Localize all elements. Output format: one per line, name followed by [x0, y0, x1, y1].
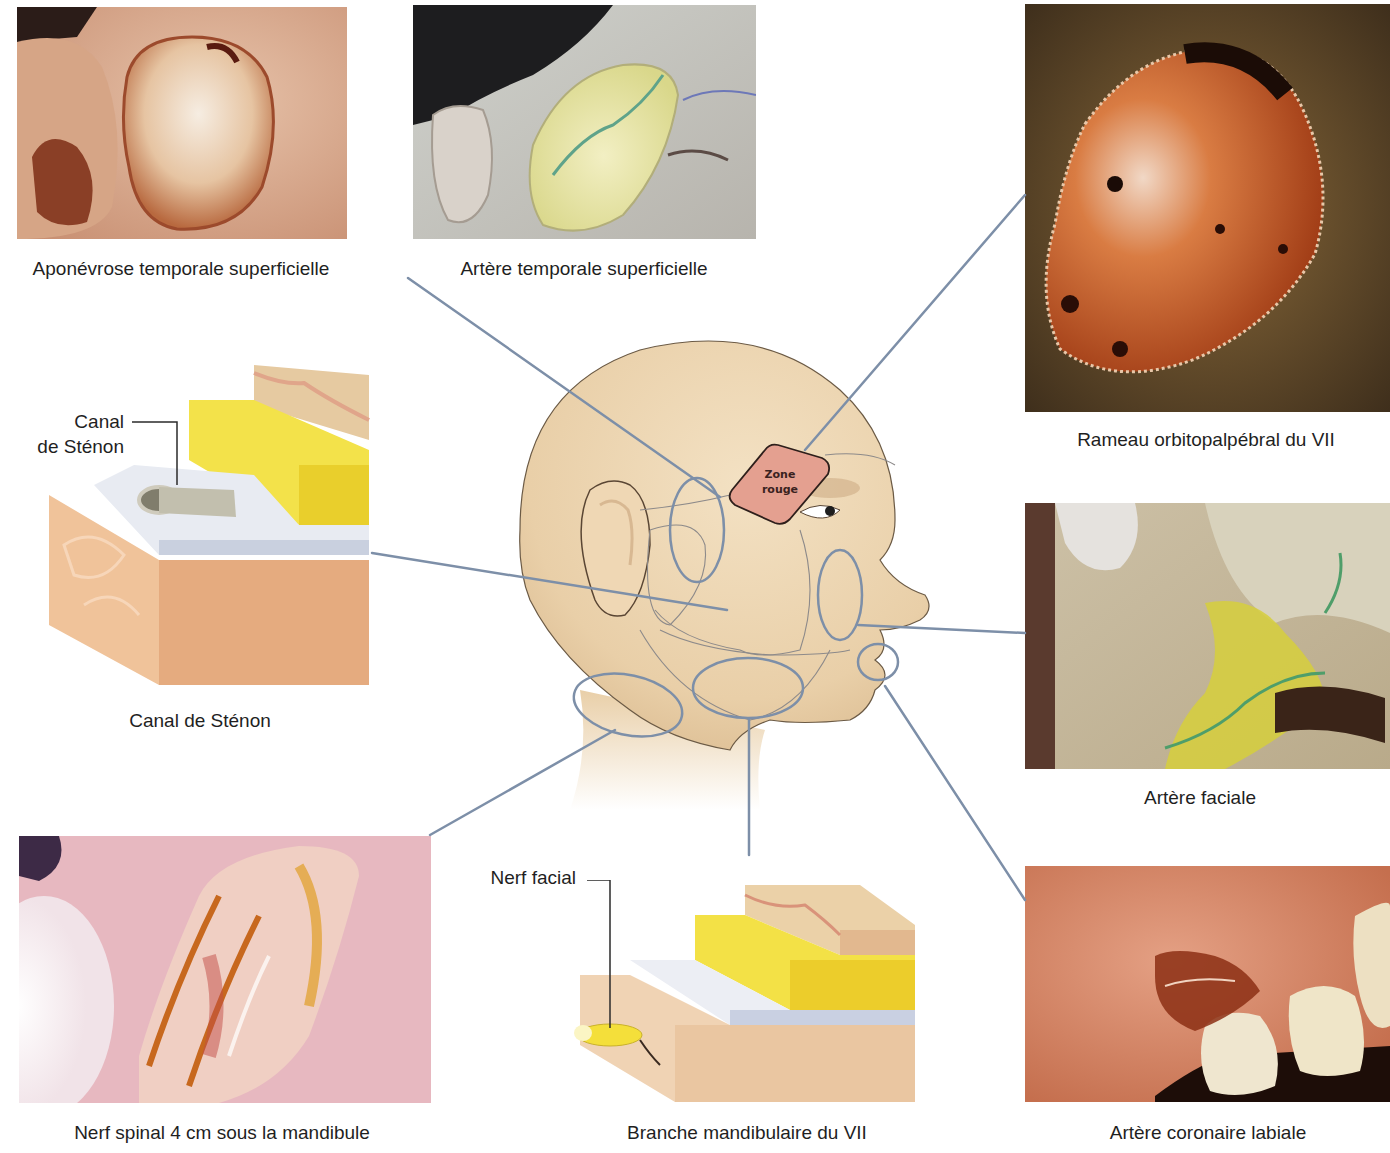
- head-profile-drawing: Zone rouge: [500, 330, 940, 810]
- callout-nerf-facial-label: Nerf facial: [460, 865, 576, 890]
- photo-artere-coronaire: [1025, 866, 1390, 1102]
- branche-mandibulaire-tissue-block: [565, 880, 920, 1105]
- photo-aponevrose-temporale: [17, 7, 347, 239]
- photo-artere-faciale: [1025, 503, 1390, 769]
- photo-artere-faciale-image: [1025, 503, 1390, 769]
- callout-canal-stenon-line2: de Sténon: [14, 434, 124, 459]
- photo-rameau-orbitopalpebral: [1025, 4, 1390, 412]
- caption-artere-coronaire: Artère coronaire labiale: [1110, 1122, 1306, 1144]
- zone-rouge-label-line2: rouge: [762, 483, 798, 496]
- caption-nerf-spinal: Nerf spinal 4 cm sous la mandibule: [74, 1122, 370, 1144]
- caption-branche-mandibulaire: Branche mandibulaire du VII: [627, 1122, 867, 1144]
- caption-rameau-orbitopalpebral: Rameau orbitopalpébral du VII: [1077, 429, 1335, 451]
- caption-artere-temporale: Artère temporale superficielle: [460, 258, 707, 280]
- photo-nerf-spinal: [19, 836, 431, 1103]
- callout-canal-stenon-line1: Canal: [14, 409, 124, 434]
- zone-rouge-label-line1: Zone: [765, 468, 796, 481]
- photo-artere-temporale: [413, 5, 756, 239]
- caption-aponevrose: Aponévrose temporale superficielle: [33, 258, 330, 280]
- caption-artere-faciale: Artère faciale: [1144, 787, 1256, 809]
- photo-artere-temporale-image: [413, 5, 756, 239]
- callout-canal-stenon: Canal de Sténon: [14, 409, 124, 459]
- photo-artere-coronaire-image: [1025, 866, 1390, 1102]
- photo-nerf-spinal-image: [19, 836, 431, 1103]
- callout-nerf-facial: Nerf facial: [460, 865, 576, 890]
- caption-canal-stenon: Canal de Sténon: [129, 710, 271, 732]
- photo-rameau-orbitopalpebral-image: [1025, 4, 1390, 412]
- illustration-branche-mandibulaire: [565, 880, 920, 1105]
- head-profile-illustration: Zone rouge: [500, 330, 940, 810]
- photo-aponevrose-image: [17, 7, 347, 239]
